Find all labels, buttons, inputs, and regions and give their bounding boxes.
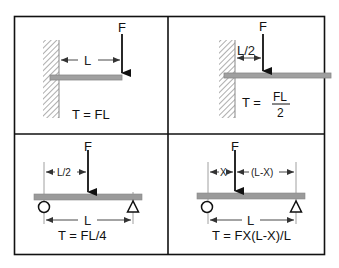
force-label: F [84,139,92,154]
dimension-label: L [84,53,91,68]
beam-deflection-diagram: F L T = FL F L/2 T = FL 2 F L/2 L T = FL… [0,0,339,268]
force-label: F [231,139,239,154]
beam [197,193,305,199]
formula: T = FL/4 [58,228,107,243]
beam [50,75,122,80]
pin-support [128,201,139,212]
panel-simply-supported-offset-load: F X (L-X) L T = FX(L-X)/L [197,139,305,243]
wall-hatch [219,40,235,118]
outer-frame [15,17,325,255]
half-dimension-label: L/2 [57,167,71,178]
roller-support [39,202,50,213]
span-label: L [247,213,254,228]
beam [34,194,142,200]
span-label: L [84,213,91,228]
formula: T = FX(L-X)/L [212,228,291,243]
x-dimension-label: X [220,167,227,178]
remaining-dimension-label: (L-X) [251,167,273,178]
force-label: F [259,19,267,34]
formula: T = FL [72,107,110,122]
force-label: F [118,20,126,35]
roller-support [202,202,213,213]
dimension-label: L/2 [237,43,255,58]
beam [224,73,331,78]
formula-denominator: 2 [277,106,284,120]
panel-cantilever-mid-load: F L/2 T = FL 2 [219,19,331,120]
formula-prefix: T = [242,95,261,110]
panel-simply-supported-center-load: F L/2 L T = FL/4 [34,139,142,243]
formula-numerator: FL [273,90,287,104]
pin-support [291,201,302,212]
panel-cantilever-end-load: F L T = FL [43,20,126,122]
